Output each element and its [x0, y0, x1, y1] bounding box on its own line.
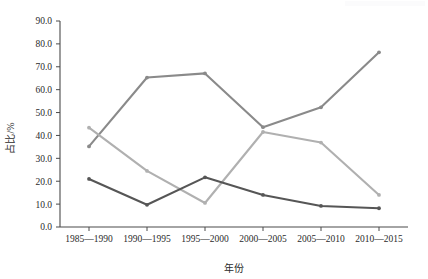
- data-point-marker: [87, 145, 91, 149]
- data-point-marker: [377, 193, 381, 197]
- x-tick-label: 2000—2005: [239, 234, 287, 244]
- chart-canvas: 90.080.070.060.050.040.030.020.010.00.0 …: [0, 0, 428, 279]
- data-point-marker: [203, 72, 207, 76]
- y-tick-label: 40.0: [35, 131, 52, 141]
- data-point-marker: [145, 203, 149, 207]
- data-point-marker: [203, 175, 207, 179]
- data-point-marker: [87, 177, 91, 181]
- data-point-marker: [377, 50, 381, 54]
- y-tick-label: 20.0: [35, 177, 52, 187]
- y-tick-label: 60.0: [35, 85, 52, 95]
- data-point-marker: [319, 105, 323, 109]
- data-point-marker: [145, 76, 149, 80]
- data-point-marker: [261, 130, 265, 134]
- y-tick-label: 10.0: [35, 200, 52, 210]
- y-tick-label: 0.0: [40, 222, 52, 232]
- y-axis-title: 占比/%: [4, 122, 16, 153]
- y-tick-label: 70.0: [35, 62, 52, 72]
- data-point-marker: [319, 141, 323, 145]
- data-point-marker: [261, 125, 265, 129]
- x-tick-label: 2010—2015: [355, 234, 403, 244]
- data-point-marker: [377, 206, 381, 210]
- y-tick-label: 50.0: [35, 108, 52, 118]
- data-point-marker: [87, 126, 91, 130]
- data-point-marker: [145, 169, 149, 173]
- x-tick-label: 1995—2000: [181, 234, 229, 244]
- data-point-marker: [319, 204, 323, 208]
- line-chart: 90.080.070.060.050.040.030.020.010.00.0 …: [0, 0, 428, 279]
- x-tick-label: 2005—2010: [297, 234, 345, 244]
- y-tick-label: 30.0: [35, 154, 52, 164]
- data-point-marker: [203, 201, 207, 205]
- scan-artifact: [345, 1, 425, 6]
- data-point-marker: [261, 193, 265, 197]
- x-axis-title: 年份: [224, 262, 244, 274]
- x-tick-label: 1985—1990: [65, 234, 113, 244]
- y-tick-label: 90.0: [35, 16, 52, 26]
- x-tick-label: 1990—1995: [123, 234, 171, 244]
- y-tick-label: 80.0: [35, 39, 52, 49]
